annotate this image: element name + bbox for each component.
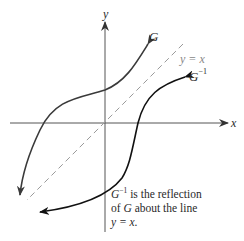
x-axis-label: x <box>231 117 236 129</box>
curve-g-inverse-label: G−1 <box>189 70 207 83</box>
y-axis-label: y <box>103 8 108 20</box>
ginv-exponent: −1 <box>198 67 207 76</box>
caption-line-1: G−1 is the reflection <box>111 184 202 201</box>
caption-text-1: is the reflection <box>127 188 201 200</box>
caption-text-3: y = x. <box>111 216 138 228</box>
caption-line-2: of G about the line <box>111 201 202 215</box>
curve-g <box>20 44 148 195</box>
caption-text-2c: about the line <box>132 202 197 214</box>
ginv-base: G <box>189 69 198 84</box>
caption-line-3: y = x. <box>111 215 202 229</box>
caption-text-2a: of <box>111 202 123 214</box>
caption: G−1 is the reflection of G about the lin… <box>111 184 202 229</box>
caption-text-2b: G <box>123 202 131 214</box>
curve-g-label: G <box>149 30 158 43</box>
identity-line-label: y = x <box>180 53 205 65</box>
